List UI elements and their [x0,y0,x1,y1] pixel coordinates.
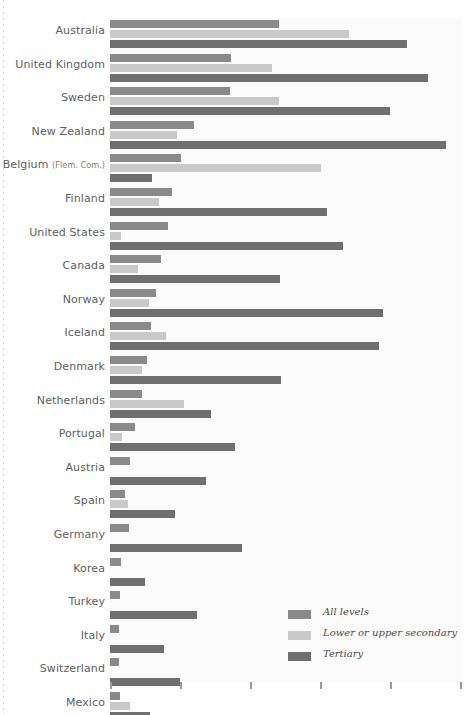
chart-row: Netherlands [0,388,465,422]
category-label: New Zealand [0,125,105,138]
bar-lower-or-upper-secondary [110,30,349,38]
bar-all-levels [110,591,120,599]
legend-item[interactable]: Lower or upper secondary [288,627,463,648]
bar-lower-or-upper-secondary [110,64,272,72]
bar-all-levels [110,188,172,196]
bar-tertiary [110,174,152,182]
category-label: Germany [0,528,105,541]
legend-item[interactable]: All levels [288,606,463,627]
bar-all-levels [110,121,194,129]
bar-all-levels [110,457,130,465]
bar-group [110,20,462,51]
bar-tertiary [110,342,379,350]
bar-group [110,255,462,286]
bar-group [110,121,462,152]
chart-row: Australia [0,18,465,52]
bar-tertiary [110,40,407,48]
chart-row: Belgium (Flem. Com.) [0,152,465,186]
bar-all-levels [110,255,161,263]
chart-row: Iceland [0,320,465,354]
bar-lower-or-upper-secondary [110,366,142,374]
chart-row: Portugal [0,421,465,455]
bar-all-levels [110,558,121,566]
chart-row: Denmark [0,354,465,388]
bar-tertiary [110,544,242,552]
category-label: Netherlands [0,394,105,407]
bar-all-levels [110,20,279,28]
bar-lower-or-upper-secondary [110,265,138,273]
category-label: Canada [0,259,105,272]
category-label: Korea [0,562,105,575]
x-axis-tick [320,682,322,689]
bar-lower-or-upper-secondary [110,332,166,340]
bar-tertiary [110,107,390,115]
bar-lower-or-upper-secondary [110,198,159,206]
bar-lower-or-upper-secondary [110,500,128,508]
bar-tertiary [110,510,175,518]
bar-group [110,188,462,219]
chart-row: Sweden [0,85,465,119]
bar-tertiary [110,410,211,418]
bar-tertiary [110,376,281,384]
chart-row: Spain [0,488,465,522]
legend-label: Lower or upper secondary [323,627,457,638]
chart-row: Germany [0,522,465,556]
bar-tertiary [110,443,235,451]
legend-swatch [288,610,311,619]
x-axis-tick [460,682,462,689]
category-label: Denmark [0,360,105,373]
bar-all-levels [110,524,129,532]
bar-all-levels [110,289,156,297]
bar-all-levels [110,658,119,666]
bar-tertiary [110,477,206,485]
bar-lower-or-upper-secondary [110,232,121,240]
chart-row: New Zealand [0,119,465,153]
legend-label: All levels [323,606,369,617]
category-label: Sweden [0,91,105,104]
legend-swatch [288,631,311,640]
bar-all-levels [110,54,231,62]
category-label: Iceland [0,326,105,339]
bar-lower-or-upper-secondary [110,164,321,172]
legend-item[interactable]: Tertiary [288,648,463,669]
chart-row: Norway [0,287,465,321]
bar-group [110,356,462,387]
bar-group [110,54,462,85]
category-label: Belgium (Flem. Com.) [0,158,105,171]
bar-group [110,87,462,118]
chart-row: Austria [0,455,465,489]
x-axis-tick [110,682,112,689]
category-label: Switzerland [0,662,105,675]
chart-row: Korea [0,556,465,590]
chart-row: United States [0,220,465,254]
category-label: Mexico [0,696,105,709]
bar-all-levels [110,356,147,364]
bar-group [110,457,462,488]
x-axis-tick [180,682,182,689]
bar-all-levels [110,154,181,162]
bar-tertiary [110,275,280,283]
bar-lower-or-upper-secondary [110,299,149,307]
bar-group [110,558,462,589]
bar-group [110,322,462,353]
category-label: United Kingdom [0,58,105,71]
x-axis [110,682,462,694]
x-axis-tick [390,682,392,689]
category-label: Turkey [0,595,105,608]
bar-all-levels [110,490,125,498]
bar-all-levels [110,390,142,398]
bar-group [110,222,462,253]
category-label: Norway [0,293,105,306]
chart-row: United Kingdom [0,52,465,86]
bar-all-levels [110,625,119,633]
bar-lower-or-upper-secondary [110,131,177,139]
legend-label: Tertiary [323,648,363,659]
bar-tertiary [110,645,164,653]
bar-group [110,154,462,185]
bar-lower-or-upper-secondary [110,702,130,710]
legend-swatch [288,652,311,661]
bar-tertiary [110,242,343,250]
bar-group [110,692,462,715]
chart-legend: All levelsLower or upper secondaryTertia… [288,606,463,669]
bar-group [110,524,462,555]
